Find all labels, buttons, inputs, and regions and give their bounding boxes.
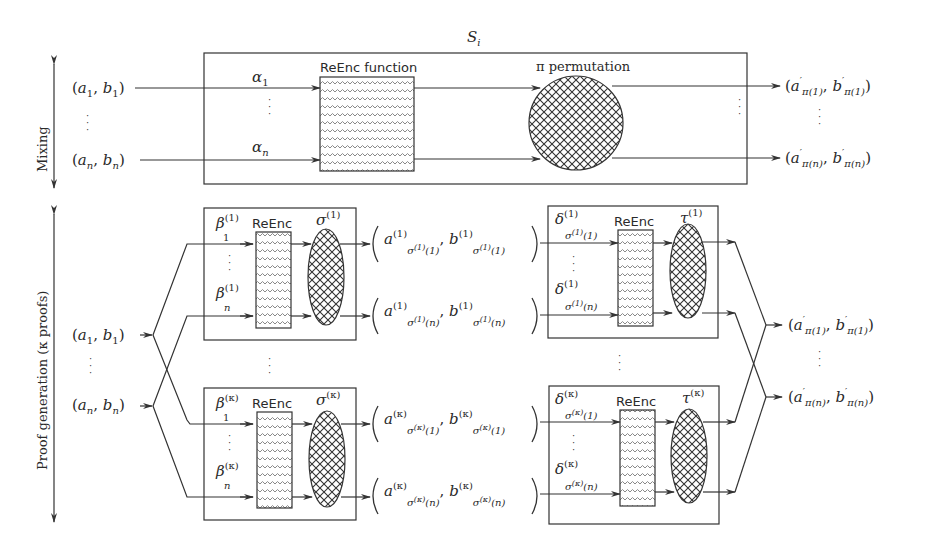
output-pi1: (a′π(1), b′π(1)) [785,79,871,94]
vdots: ··· [89,355,92,376]
intermediate-output-1-1: a(1)σ(1)(1), b(1)σ(1)(1) [384,232,505,247]
tau-1-label: τ(1) [680,211,702,226]
vdots: ··· [618,352,621,373]
beta-n-k-label: β(κ) [216,464,239,479]
intermediate-output-1-n: a(1)σ(1)(n), b(1)σ(1)(n) [384,304,505,319]
input-a1b1: (a1, b1) [72,81,125,96]
delta-sub: σ(κ)(1) [565,409,598,421]
proof-input-anbn: (an, bn) [72,398,125,413]
input-anbn: (an, bn) [72,153,125,168]
beta-sub: 1 [223,233,229,243]
alpha-1-label: α1 [252,70,269,85]
tau-k-label: τ(κ) [682,391,704,406]
server-box [204,53,747,184]
sigma-1-label: σ(1) [316,213,340,228]
proof-generation-label: Proof generation (κ proofs) [35,291,50,470]
beta-1-1-label: β(1) [216,216,239,231]
delta-sub: σ(κ)(n) [565,480,598,492]
delta-n-k-label: δ(κ) [555,462,578,477]
vdots: ··· [268,96,271,117]
vdots: ··· [572,253,575,274]
intermediate-output-k-1: a(κ)σ(κ)(1), b(κ)σ(κ)(1) [384,412,505,427]
alpha-n-label: αn [252,140,269,155]
delta-n-1-label: δ(1) [555,282,578,297]
vdots: ··· [738,96,741,117]
reenc-label: ReEnc [614,215,654,228]
vdots: ··· [86,112,89,133]
vdots: ··· [818,106,821,127]
delta-sub: σ(1)(1) [565,229,597,241]
beta-1-k-label: β(κ) [216,396,239,411]
reenc-function-box [320,77,414,171]
beta-sub: 1 [223,413,229,423]
vdots: ··· [228,432,231,453]
beta-sub: n [224,303,230,313]
reenc-label: ReEnc [252,217,292,230]
beta-sub: n [224,481,230,491]
final-output-pi1: (a′π(1), b′π(1)) [788,318,874,333]
pi-permutation-circle [529,76,623,170]
output-pin: (a′π(n), b′π(n)) [785,151,871,166]
mixing-label: Mixing [35,126,50,172]
pi-permutation-label: π permutation [536,60,630,73]
beta-n-1-label: β(1) [216,286,239,301]
proof-input-a1b1: (a1, b1) [72,328,125,343]
sigma-k-label: σ(κ) [316,393,340,408]
reenc-label: ReEnc [252,397,292,410]
vdots: ··· [818,348,821,369]
intermediate-output-k-n: a(κ)σ(κ)(n), b(κ)σ(κ)(n) [384,484,505,499]
reenc-label: ReEnc [616,395,656,408]
vdots: ··· [228,252,231,273]
vdots: ··· [268,355,271,376]
reenc-function-label: ReEnc function [320,61,417,74]
delta-1-1-label: δ(1) [555,212,578,227]
delta-sub: σ(1)(n) [565,300,597,312]
vdots: ··· [572,432,575,453]
final-output-pin: (a′π(n), b′π(n)) [788,390,874,405]
server-label: Si [467,30,480,45]
delta-1-k-label: δ(κ) [555,392,578,407]
